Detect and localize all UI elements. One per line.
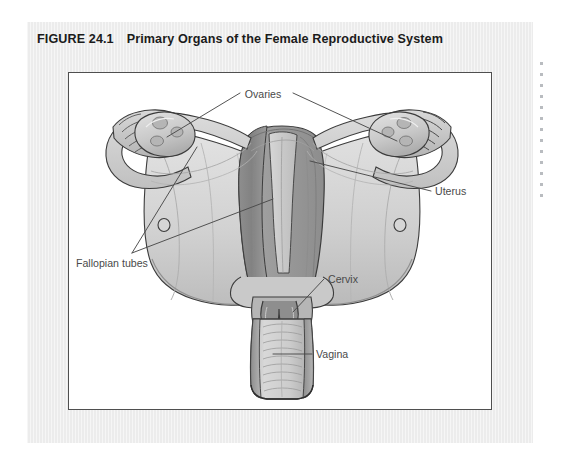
margin-dotted-rule <box>540 62 543 198</box>
uterus-group <box>230 126 333 329</box>
illustration-frame: Ovaries Uterus Fallopian tubes Cervix Va… <box>68 72 492 410</box>
vagina-group <box>251 319 314 399</box>
figure-title: Primary Organs of the Female Reproductiv… <box>127 32 443 46</box>
label-fallopian-tubes: Fallopian tubes <box>76 257 148 269</box>
label-vagina: Vagina <box>316 348 348 360</box>
figure-page: FIGURE 24.1Primary Organs of the Female … <box>0 0 561 465</box>
figure-caption: FIGURE 24.1Primary Organs of the Female … <box>37 32 507 46</box>
round-ligament-nodule-left <box>158 219 170 232</box>
round-ligament-nodule-right <box>394 219 406 232</box>
vaginal-wall-left <box>251 319 261 398</box>
figure-number: FIGURE 24.1 <box>37 32 114 46</box>
anatomy-illustration: Ovaries Uterus Fallopian tubes Cervix Va… <box>69 73 491 409</box>
label-cervix: Cervix <box>328 273 359 285</box>
vaginal-wall-right <box>303 319 313 398</box>
label-ovaries: Ovaries <box>245 88 282 100</box>
label-uterus: Uterus <box>435 185 466 197</box>
